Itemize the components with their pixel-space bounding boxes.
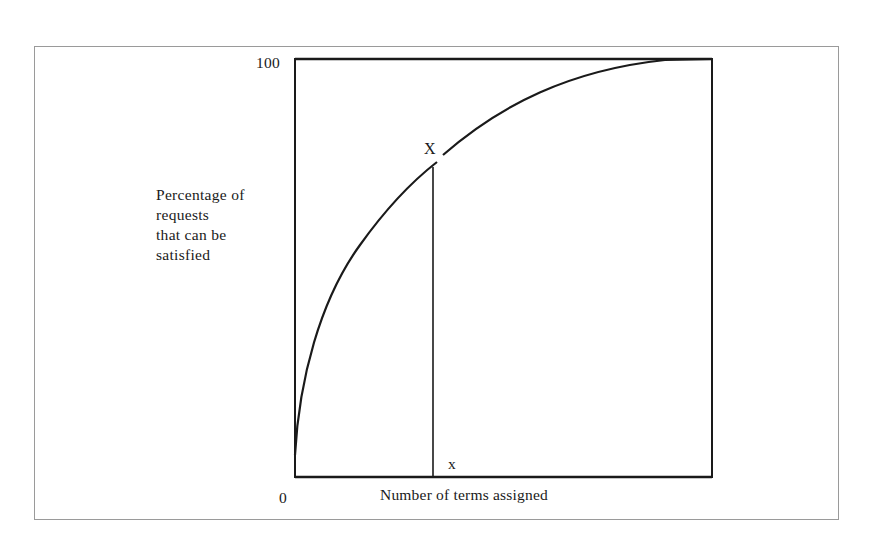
y-axis-label-line: Percentage of [156, 185, 245, 205]
y-axis-label: Percentage of requests that can be satis… [156, 185, 245, 265]
y-axis-label-line: satisfied [156, 245, 245, 265]
chart-plot-area [0, 0, 871, 549]
plot-box [295, 59, 712, 477]
origin-label: 0 [279, 490, 287, 506]
point-label-lower: x [448, 456, 456, 472]
y-tick-100: 100 [256, 55, 280, 71]
y-axis-label-line: that can be [156, 225, 245, 245]
coverage-curve [295, 162, 437, 455]
x-axis-label: Number of terms assigned [380, 487, 548, 503]
point-label-upper: X [424, 141, 436, 157]
y-axis-label-line: requests [156, 205, 245, 225]
coverage-curve-upper [443, 59, 712, 155]
